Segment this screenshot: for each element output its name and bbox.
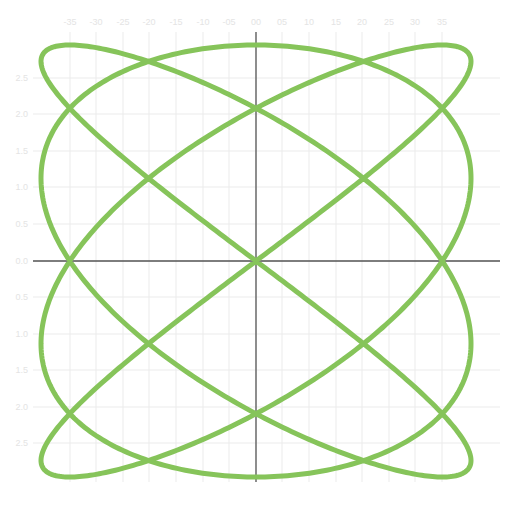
y-tick-label: 1.0 bbox=[15, 329, 28, 339]
y-tick-label: 2.5 bbox=[15, 438, 28, 448]
y-tick-label: 2.0 bbox=[15, 402, 28, 412]
x-tick-labels: -35-30-25-20-15-10-050005101520253035 bbox=[63, 17, 447, 27]
x-tick-label: 30 bbox=[410, 17, 420, 27]
x-tick-label: 10 bbox=[304, 17, 314, 27]
y-tick-labels: 2.52.01.51.00.50.00.51.01.52.02.5 bbox=[15, 73, 28, 448]
x-tick-label: 25 bbox=[384, 17, 394, 27]
y-tick-label: 0.5 bbox=[15, 219, 28, 229]
y-tick-label: 0.0 bbox=[15, 256, 28, 266]
x-tick-label: 05 bbox=[277, 17, 287, 27]
x-tick-label: -30 bbox=[89, 17, 102, 27]
x-tick-label: -20 bbox=[142, 17, 155, 27]
y-tick-label: 0.5 bbox=[15, 292, 28, 302]
x-tick-label: -05 bbox=[222, 17, 235, 27]
y-tick-label: 2.5 bbox=[15, 73, 28, 83]
x-tick-label: 35 bbox=[437, 17, 447, 27]
x-tick-label: -15 bbox=[169, 17, 182, 27]
y-tick-label: 1.5 bbox=[15, 365, 28, 375]
x-tick-label: 00 bbox=[251, 17, 261, 27]
x-tick-label: 15 bbox=[331, 17, 341, 27]
x-tick-label: -35 bbox=[63, 17, 76, 27]
x-tick-label: 20 bbox=[357, 17, 367, 27]
y-tick-label: 1.0 bbox=[15, 182, 28, 192]
y-tick-label: 2.0 bbox=[15, 109, 28, 119]
lissajous-chart: -35-30-25-20-15-10-050005101520253035 2.… bbox=[0, 0, 521, 522]
x-tick-label: -10 bbox=[196, 17, 209, 27]
y-tick-label: 1.5 bbox=[15, 146, 28, 156]
x-tick-label: -25 bbox=[116, 17, 129, 27]
